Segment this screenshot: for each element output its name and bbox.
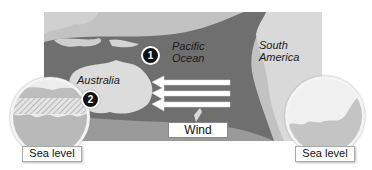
marker-2: 2	[81, 90, 100, 109]
wind-label: Wind	[168, 122, 228, 138]
south-america-label: South America	[259, 39, 299, 63]
south-america-line1: South	[259, 39, 299, 51]
right-sea-level-callout	[285, 76, 365, 156]
pacific-ocean-label: Pacific Ocean	[172, 40, 204, 64]
raised-sea-level-graphic	[13, 80, 87, 154]
right-sea-level-label: Sea level	[295, 146, 355, 162]
pacific-ocean-line2: Ocean	[172, 52, 204, 64]
marker-1: 1	[141, 46, 160, 65]
lowered-sea-level-graphic	[288, 79, 362, 153]
pacific-ocean-line1: Pacific	[172, 40, 204, 52]
left-sea-level-callout	[10, 77, 90, 157]
south-america-line2: America	[259, 51, 299, 63]
left-sea-level-label: Sea level	[22, 146, 82, 162]
australia-label: Australia	[77, 74, 120, 86]
